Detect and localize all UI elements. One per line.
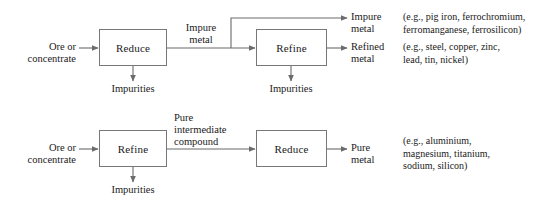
pure-metal-output-label: Pure metal xyxy=(351,142,401,166)
refined-metal-output-label: Refined metal xyxy=(351,41,401,65)
node-bottom-refine[interactable]: Refine xyxy=(99,130,167,167)
pure-metal-examples: (e.g., aluminium, magnesium, titanium, s… xyxy=(403,135,551,173)
node-bottom-reduce[interactable]: Reduce xyxy=(256,130,327,167)
top-intermediate-label: Impure metal xyxy=(173,22,229,46)
node-top-refine[interactable]: Refine xyxy=(256,29,327,66)
bottom-impurities-label-1: Impurities xyxy=(98,184,168,196)
bottom-input-label: Ore or concentrate xyxy=(6,142,76,166)
top-impurities-label-2: Impurities xyxy=(256,83,326,95)
impure-metal-examples: (e.g., pig iron, ferrochromium, ferroman… xyxy=(403,11,551,36)
top-input-label: Ore or concentrate xyxy=(6,41,76,65)
bottom-intermediate-label: Pure intermediate compound xyxy=(174,112,254,148)
node-top-reduce[interactable]: Reduce xyxy=(99,29,167,66)
refined-metal-examples: (e.g., steel, copper, zinc, lead, tin, n… xyxy=(403,41,551,66)
top-impurities-label-1: Impurities xyxy=(98,83,168,95)
impure-metal-output-label: Impure metal xyxy=(351,11,401,35)
process-flow-diagram: Ore or concentrate Reduce Impure metal R… xyxy=(0,0,551,203)
